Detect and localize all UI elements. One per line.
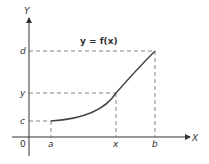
- function-curve: [51, 51, 155, 121]
- guide-lines: [29, 51, 155, 137]
- y-axis-label: Y: [24, 6, 31, 16]
- tick-c: c: [20, 116, 25, 126]
- tick-y: y: [19, 88, 26, 98]
- x-axis-label: X: [191, 133, 199, 143]
- tick-d: d: [20, 46, 26, 56]
- function-title: y = f(x): [80, 36, 118, 46]
- tick-a: a: [48, 139, 54, 149]
- tick-x: x: [112, 139, 119, 149]
- function-graph: y = f(x) Y X 0 a x b c y d: [0, 0, 209, 164]
- origin-label: 0: [20, 139, 26, 149]
- tick-b: b: [152, 139, 158, 149]
